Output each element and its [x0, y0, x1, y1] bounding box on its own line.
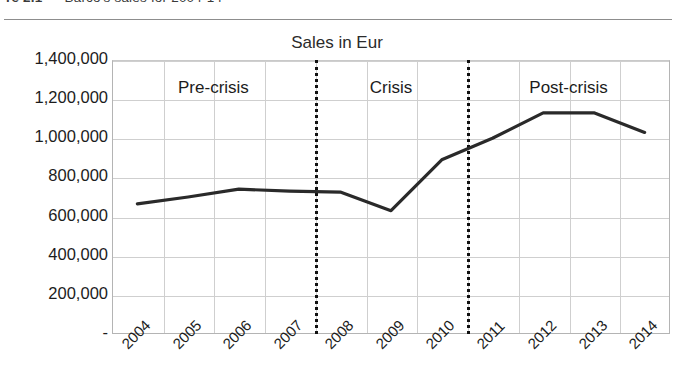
series-line-sales — [112, 60, 670, 334]
figure-title: Barco's sales for 2004-14 — [64, 0, 222, 5]
caption-divider-rule — [4, 19, 672, 20]
y-axis-tick-label: 200,000 — [4, 284, 108, 303]
figure-caption: re 2.1Barco's sales for 2004-14 — [0, 0, 674, 10]
y-axis-tick-label: 400,000 — [4, 245, 108, 264]
line-chart: Sales in Eur 1,400,0001,200,0001,000,000… — [0, 24, 674, 392]
y-axis-tick-label: 1,200,000 — [4, 88, 108, 107]
y-axis-tick-label: 600,000 — [4, 206, 108, 225]
figure-caption-text: re 2.1Barco's sales for 2004-14 — [6, 0, 222, 5]
y-axis-tick-label: 1,000,000 — [4, 127, 108, 146]
y-axis-tick-label: 800,000 — [4, 166, 108, 185]
y-axis-tick-label: 1,400,000 — [4, 49, 108, 68]
figure-number: re 2.1 — [6, 0, 42, 5]
y-axis-tick-label: - — [4, 323, 108, 342]
